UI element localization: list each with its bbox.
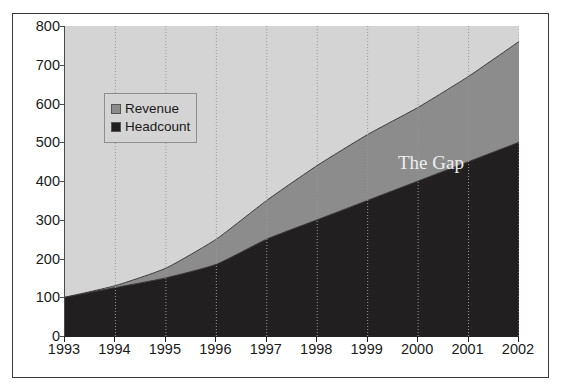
y-axis-tick-label: 700 bbox=[16, 58, 60, 73]
area-series-headcount bbox=[65, 142, 519, 336]
chart-legend: RevenueHeadcount bbox=[104, 93, 197, 143]
plot-area bbox=[64, 26, 519, 337]
x-axis-labels: 1993199419951996199719981999200020012002 bbox=[64, 342, 518, 366]
legend-item[interactable]: Revenue bbox=[111, 100, 189, 118]
y-axis-tick-label: 200 bbox=[16, 251, 60, 266]
legend-swatch-icon bbox=[111, 104, 121, 114]
y-axis-tick-label: 800 bbox=[16, 19, 60, 34]
area-chart-svg bbox=[65, 26, 519, 336]
y-axis-tick-label: 300 bbox=[16, 213, 60, 228]
legend-label: Revenue bbox=[125, 102, 179, 116]
legend-swatch-icon bbox=[111, 122, 121, 132]
legend-item[interactable]: Headcount bbox=[111, 118, 189, 136]
y-axis-labels: 0100200300400500600700800 bbox=[13, 26, 60, 336]
y-axis-tick-label: 500 bbox=[16, 135, 60, 150]
chart-figure: Index of Revenue & Headcount Growth (199… bbox=[12, 13, 549, 378]
x-axis-tick-label: 2002 bbox=[488, 342, 548, 357]
legend-label: Headcount bbox=[125, 120, 190, 134]
y-axis-tick-label: 400 bbox=[16, 174, 60, 189]
y-axis-tick-label: 100 bbox=[16, 290, 60, 305]
y-axis-tick-label: 600 bbox=[16, 96, 60, 111]
